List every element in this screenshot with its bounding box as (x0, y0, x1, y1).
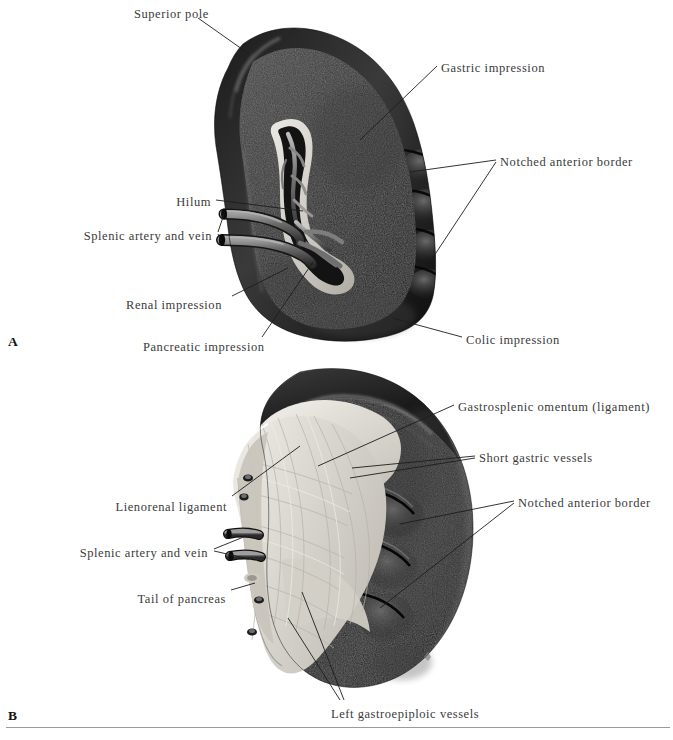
panel-letter-a: A (8, 334, 18, 350)
label-pancreatic-impression: Pancreatic impression (143, 341, 265, 354)
label-left-gastroepiploic-vessels: Left gastroepiploic vessels (331, 708, 479, 721)
label-splenic-artery-and-vein: Splenic artery and vein (84, 230, 212, 243)
gastric-impression-shade (310, 86, 406, 190)
spleen-illustration (0, 0, 673, 740)
label-tail-of-pancreas: Tail of pancreas (138, 593, 226, 606)
label-lienorenal-ligament: Lienorenal ligament (116, 501, 227, 514)
label-superior-pole: Superior pole (134, 8, 209, 21)
label-hilum: Hilum (176, 196, 211, 209)
label-splenic-artery-and-vein-b: Splenic artery and vein (80, 547, 208, 560)
footer-rule (6, 727, 670, 728)
label-notched-anterior-border-b: Notched anterior border (518, 497, 651, 510)
panel-b-figure (214, 369, 514, 700)
label-short-gastric-vessels: Short gastric vessels (479, 452, 593, 465)
anatomy-plate: Superior pole Gastric impression Notched… (0, 0, 673, 740)
label-gastric-impression: Gastric impression (441, 62, 545, 75)
label-colic-impression: Colic impression (466, 334, 560, 347)
label-gastrosplenic-omentum: Gastrosplenic omentum (ligament) (458, 401, 650, 414)
label-renal-impression: Renal impression (126, 299, 222, 312)
label-notched-anterior-border: Notched anterior border (500, 156, 633, 169)
panel-letter-b: B (8, 708, 17, 724)
